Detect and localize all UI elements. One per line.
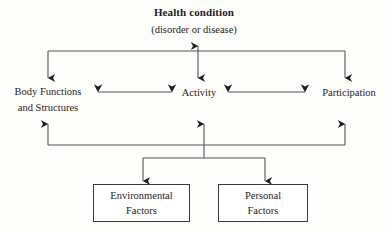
box-personal-factors-line1: Personal [245, 188, 281, 203]
icf-diagram: Health condition (disorder or disease) B… [0, 0, 388, 232]
node-activity: Activity [168, 85, 230, 100]
box-environmental-factors: Environmental Factors [93, 184, 190, 222]
box-environmental-factors-line1: Environmental [110, 188, 172, 203]
node-body-functions-line1: Body Functions [2, 84, 94, 100]
health-condition-subtitle: (disorder or disease) [0, 22, 388, 37]
health-condition-title: Health condition [0, 5, 388, 21]
node-body-functions-line2: and Structures [2, 100, 94, 116]
node-body-functions-and-structures: Body Functions and Structures [2, 84, 94, 116]
box-personal-factors-line2: Factors [245, 203, 281, 218]
box-personal-factors: Personal Factors [218, 184, 308, 222]
node-participation: Participation [312, 85, 386, 100]
box-environmental-factors-line2: Factors [110, 203, 172, 218]
